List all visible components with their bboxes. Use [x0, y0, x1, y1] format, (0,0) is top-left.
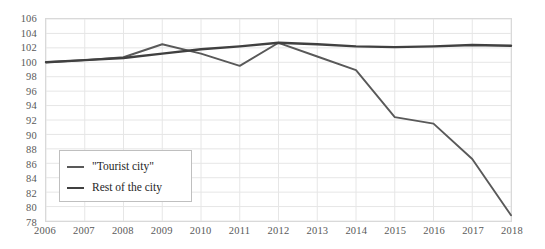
chart-legend: "Tourist city" Rest of the city	[59, 150, 192, 202]
x-axis-tick-label: 2014	[345, 225, 367, 236]
y-axis-tick-label: 80	[26, 202, 37, 213]
x-axis-tick-label: 2010	[190, 225, 212, 236]
series-line	[46, 43, 511, 62]
x-axis-tick-label: 2012	[268, 225, 290, 236]
y-axis-tick-label: 90	[26, 129, 37, 140]
x-axis-tick-label: 2008	[112, 225, 134, 236]
legend-item-label: "Tourist city"	[92, 161, 154, 173]
x-axis-tick-label: 2007	[73, 225, 95, 236]
y-axis-tick-label: 84	[26, 173, 37, 184]
x-axis-tick-label: 2009	[151, 225, 173, 236]
line-chart: 1061041021009896949290888684828078 20062…	[0, 0, 545, 249]
y-axis-tick-label: 102	[21, 42, 37, 53]
legend-item-tourist-city: "Tourist city"	[67, 156, 184, 177]
legend-swatch-icon	[67, 187, 84, 189]
x-axis-tick-label: 2017	[462, 225, 484, 236]
x-axis-tick-label: 2006	[34, 225, 56, 236]
x-axis-tick-label: 2018	[501, 225, 523, 236]
y-axis-tick-label: 98	[26, 71, 37, 82]
y-axis-tick-label: 86	[26, 158, 37, 169]
x-axis-tick-label: 2013	[307, 225, 329, 236]
y-axis-tick-label: 94	[26, 100, 37, 111]
x-axis-tick-label: 2011	[229, 225, 250, 236]
x-axis-tick-label: 2015	[384, 225, 406, 236]
y-axis-tick-label: 106	[21, 13, 37, 24]
y-axis-tick-label: 100	[21, 56, 37, 67]
y-axis-tick-label: 82	[26, 187, 37, 198]
y-axis-tick-label: 92	[26, 115, 37, 126]
y-axis-tick-label: 96	[26, 85, 37, 96]
x-axis: 2006200720082009201020112012201320142015…	[45, 223, 512, 245]
y-axis: 1061041021009896949290888684828078	[0, 18, 41, 222]
legend-item-rest-of-city: Rest of the city	[67, 177, 184, 198]
y-axis-tick-label: 104	[21, 27, 37, 38]
y-axis-tick-label: 88	[26, 144, 37, 155]
legend-item-label: Rest of the city	[92, 182, 162, 194]
legend-swatch-icon	[67, 166, 84, 168]
x-axis-tick-label: 2016	[423, 225, 445, 236]
